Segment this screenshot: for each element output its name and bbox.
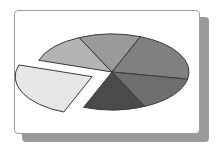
pie-slices xyxy=(15,34,189,112)
pie-chart xyxy=(0,0,219,150)
pie-slice-exploded xyxy=(15,65,92,112)
